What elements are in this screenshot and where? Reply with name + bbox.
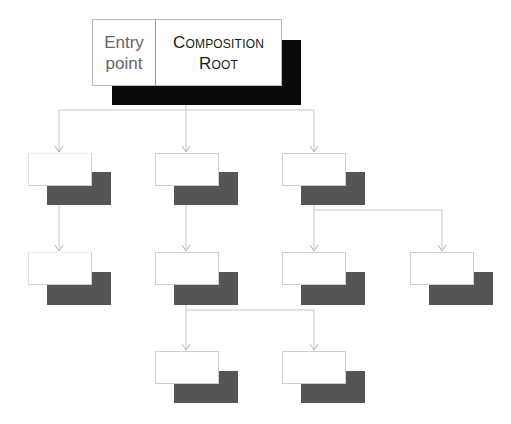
entry-point-box: Entry point <box>92 19 156 86</box>
node-box <box>28 252 92 285</box>
node-box <box>155 153 219 186</box>
node-box <box>410 252 474 285</box>
composition-root-label-line2: Root <box>199 53 238 74</box>
composition-root-box: Composition Root <box>155 19 282 86</box>
composition-root-label-line1: Composition <box>173 32 264 53</box>
node-box <box>155 351 219 384</box>
entry-point-label-line1: Entry <box>104 32 144 53</box>
entry-point-label-line2: point <box>104 53 144 74</box>
node-box <box>282 351 346 384</box>
node-box <box>282 252 346 285</box>
node-box <box>282 153 346 186</box>
node-box <box>28 153 92 186</box>
node-box <box>155 252 219 285</box>
